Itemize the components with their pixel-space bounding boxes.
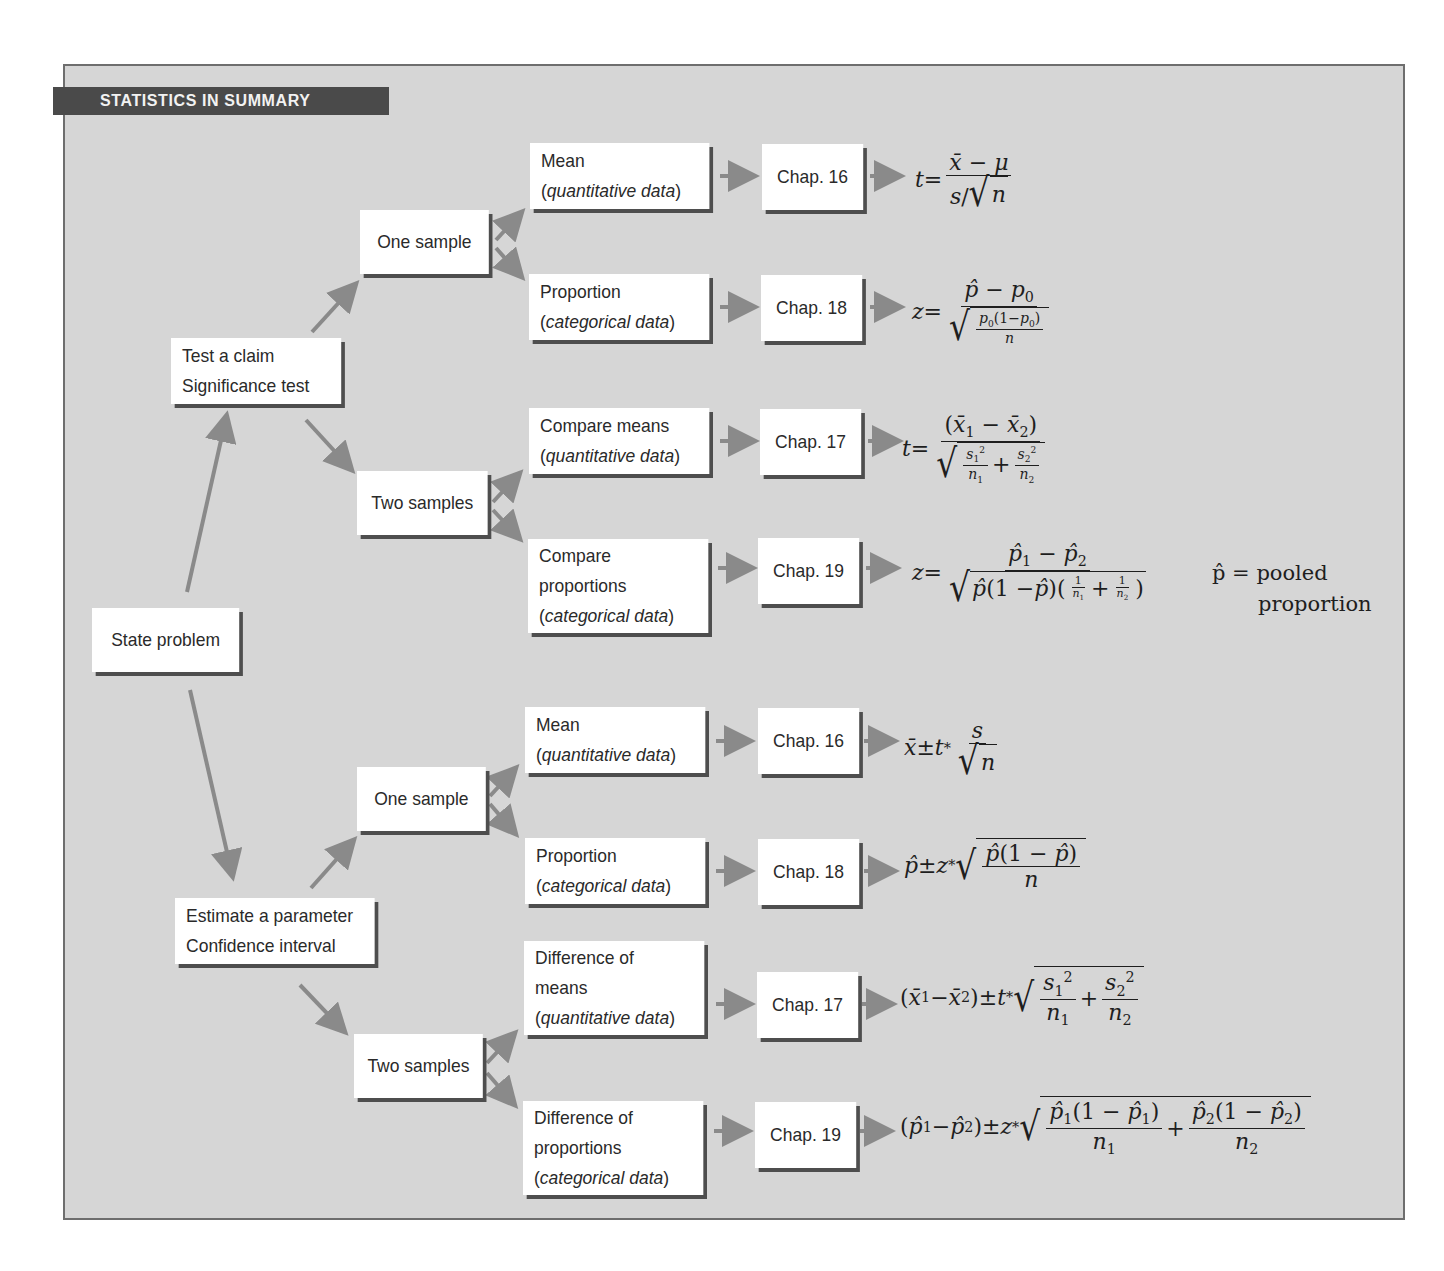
item-title: Compare xyxy=(539,541,699,571)
item-title: Compare means xyxy=(540,411,700,441)
formula-one-sample-t-test: t = x̄ − μ s/√n xyxy=(915,150,1015,210)
item-data-type: (categorical data) xyxy=(536,871,696,901)
chapter-label: Chap. 17 xyxy=(775,427,846,457)
formula-one-proportion-z-test: z = p̂ − p0 √ p0(1−p0)n xyxy=(912,277,1056,346)
test-proportion-node: Proportion (categorical data) xyxy=(529,274,709,340)
est-one-sample-label: One sample xyxy=(374,784,468,814)
item-data-type: (categorical data) xyxy=(540,307,700,337)
estimate-parameter-node: Estimate a parameter Confidence interval xyxy=(175,898,375,964)
chapter-label: Chap. 19 xyxy=(770,1120,841,1150)
item-title: Difference of xyxy=(534,1103,694,1133)
item-title: Difference of xyxy=(535,943,695,973)
test-claim-node: Test a claim Significance test xyxy=(171,338,341,404)
est-one-sample-node: One sample xyxy=(357,767,486,831)
chapter-label: Chap. 18 xyxy=(776,293,847,323)
test-two-samples-label: Two samples xyxy=(371,488,473,518)
chapter-19-node: Chap. 19 xyxy=(755,1102,856,1168)
pooled-proportion-note: p̂ = pooled proportion xyxy=(1212,558,1372,620)
est-difference-means-node: Difference of means (quantitative data) xyxy=(524,941,704,1035)
test-compare-means-node: Compare means (quantitative data) xyxy=(529,408,709,474)
item-data-type: (quantitative data) xyxy=(536,740,696,770)
test-one-sample-node: One sample xyxy=(360,210,489,274)
chapter-16-node: Chap. 16 xyxy=(762,144,863,210)
formula-two-proportion-z-test: z = p̂1 − p̂2 √ p̂(1 − p̂)( 1n1 + 1n2 ) xyxy=(912,541,1153,604)
formula-two-sample-t-interval: (x̄1 − x̄2) ± t* √ s12n1 + s22n2 xyxy=(900,966,1144,1029)
chapter-label: Chap. 19 xyxy=(773,556,844,586)
item-data-type: (categorical data) xyxy=(534,1163,694,1193)
chapter-17-node: Chap. 17 xyxy=(760,409,861,475)
test-one-sample-label: One sample xyxy=(377,227,471,257)
chapter-18-node: Chap. 18 xyxy=(758,839,859,905)
state-problem-node: State problem xyxy=(92,608,239,672)
item-title-line2: proportions xyxy=(534,1133,694,1163)
item-title: Mean xyxy=(541,146,700,176)
state-problem-label: State problem xyxy=(111,625,220,655)
formula-one-sample-t-interval: x̄ ± t* s√n xyxy=(904,718,1004,778)
item-data-type: (quantitative data) xyxy=(540,441,700,471)
chapter-label: Chap. 16 xyxy=(777,162,848,192)
chapter-19-node: Chap. 19 xyxy=(758,538,859,604)
item-title-line2: proportions xyxy=(539,571,699,601)
test-claim-line2: Significance test xyxy=(182,371,332,401)
item-title: Proportion xyxy=(536,841,696,871)
est-proportion-node: Proportion (categorical data) xyxy=(525,838,705,904)
item-data-type: (categorical data) xyxy=(539,601,699,631)
chapter-17-node: Chap. 17 xyxy=(757,972,858,1038)
item-title: Mean xyxy=(536,710,696,740)
test-two-samples-node: Two samples xyxy=(357,471,488,535)
estimate-line2: Confidence interval xyxy=(186,931,365,961)
chapter-18-node: Chap. 18 xyxy=(761,275,862,341)
formula-two-proportion-z-interval: (p̂1 − p̂2) ± z* √ p̂1(1 − p̂1)n1 + p̂2(… xyxy=(900,1096,1311,1158)
test-compare-proportions-node: Compare proportions (categorical data) xyxy=(528,539,708,633)
chapter-label: Chap. 16 xyxy=(773,726,844,756)
formula-one-proportion-z-interval: p̂ ± z* √ p̂(1 − p̂)n xyxy=(904,838,1086,893)
est-two-samples-label: Two samples xyxy=(367,1051,469,1081)
item-title-line2: means xyxy=(535,973,695,1003)
test-mean-node: Mean (quantitative data) xyxy=(530,143,709,209)
item-data-type: (quantitative data) xyxy=(535,1003,695,1033)
est-difference-proportions-node: Difference of proportions (categorical d… xyxy=(523,1101,703,1195)
estimate-line1: Estimate a parameter xyxy=(186,901,365,931)
chapter-16-node: Chap. 16 xyxy=(758,708,859,774)
item-data-type: (quantitative data) xyxy=(541,176,700,206)
item-title: Proportion xyxy=(540,277,700,307)
est-two-samples-node: Two samples xyxy=(354,1034,483,1098)
test-claim-line1: Test a claim xyxy=(182,341,332,371)
formula-two-sample-t-test: t = (x̄1 − x̄2) √ s12n1 + s22n2 xyxy=(902,412,1052,485)
chapter-label: Chap. 18 xyxy=(773,857,844,887)
est-mean-node: Mean (quantitative data) xyxy=(525,707,705,773)
chapter-label: Chap. 17 xyxy=(772,990,843,1020)
